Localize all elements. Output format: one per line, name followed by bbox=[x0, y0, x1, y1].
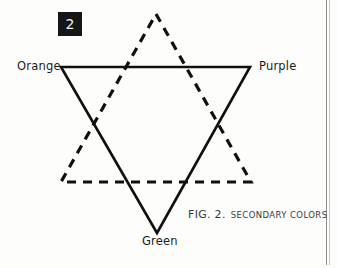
figure-page: 2 Orange Purple Green FIG. 2. SECONDARY … bbox=[0, 0, 337, 268]
upward-triangle-dashed bbox=[61, 14, 251, 182]
figure-caption-label: FIG. 2. bbox=[188, 208, 226, 221]
hexagram-diagram bbox=[0, 0, 337, 268]
figure-caption: FIG. 2. SECONDARY COLORS bbox=[188, 203, 327, 222]
vertex-label-green: Green bbox=[142, 234, 178, 248]
vertex-label-purple: Purple bbox=[259, 59, 297, 73]
figure-caption-title: SECONDARY COLORS bbox=[231, 210, 328, 220]
vertex-label-orange: Orange bbox=[17, 59, 61, 73]
